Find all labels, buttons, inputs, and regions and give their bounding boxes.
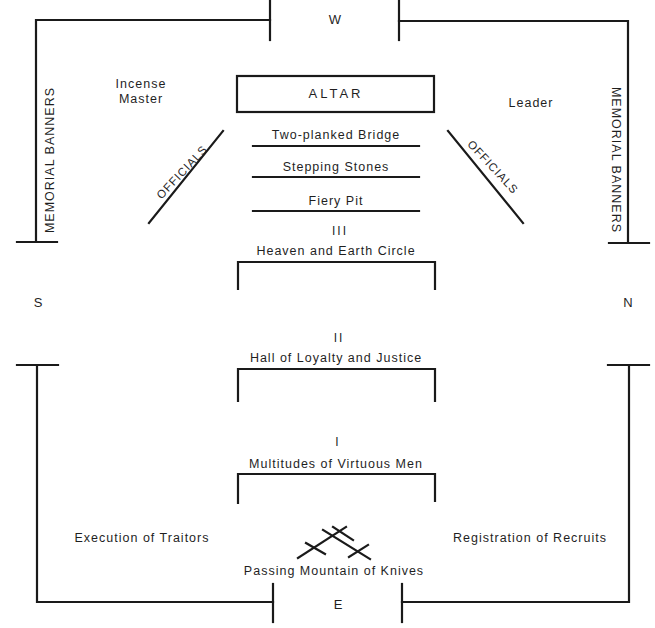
leader-label: Leader xyxy=(509,96,554,110)
knife-line-3 xyxy=(306,543,325,554)
gate-i-numeral: I xyxy=(335,435,340,449)
gate-ii-numeral: II xyxy=(334,331,345,345)
compass-west: W xyxy=(329,12,341,27)
memorial-banners-right: MEMORIAL BANNERS xyxy=(609,87,623,233)
gate-iii-label: Heaven and Earth Circle xyxy=(256,244,415,258)
incense-master-line2: Master xyxy=(116,92,167,107)
gate-ii-bracket xyxy=(238,369,435,401)
passage-bridge: Two-planked Bridge xyxy=(272,128,400,142)
passage-stepping-stones: Stepping Stones xyxy=(283,160,390,174)
compass-south: S xyxy=(34,295,43,310)
gate-iii-bracket xyxy=(238,262,435,289)
incense-master-line1: Incense xyxy=(116,77,167,92)
officials-right-line xyxy=(448,131,523,223)
knife-line-2 xyxy=(323,530,370,559)
execution-of-traitors-label: Execution of Traitors xyxy=(75,531,210,545)
mountain-of-knives-label: Passing Mountain of Knives xyxy=(244,564,424,578)
wall-northwest xyxy=(36,20,270,242)
gate-iii-numeral: III xyxy=(332,224,348,238)
officials-left-line xyxy=(149,131,223,223)
gate-i-label: Multitudes of Virtuous Men xyxy=(249,457,423,471)
compass-east: E xyxy=(334,597,343,612)
altar-label: ALTAR xyxy=(309,86,364,101)
gate-ii-label: Hall of Loyalty and Justice xyxy=(250,351,422,365)
passage-fiery-pit: Fiery Pit xyxy=(309,194,364,208)
compass-north: N xyxy=(623,295,632,310)
incense-master-label: Incense Master xyxy=(116,77,167,107)
gate-i-bracket xyxy=(238,474,435,503)
memorial-banners-left: MEMORIAL BANNERS xyxy=(43,87,57,233)
registration-of-recruits-label: Registration of Recruits xyxy=(453,531,607,545)
